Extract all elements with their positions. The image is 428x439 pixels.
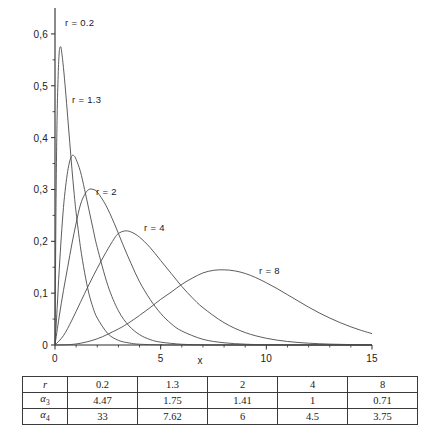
table-row-header: α3 — [23, 393, 68, 409]
x-tick-marks — [55, 345, 372, 350]
table-cell: 0.2 — [68, 377, 138, 393]
x-axis-title: x — [198, 355, 203, 366]
table-cell: 3.75 — [348, 409, 418, 425]
axes-group — [55, 8, 372, 345]
table-cell: 1.3 — [138, 377, 208, 393]
table-cell: 4 — [278, 377, 348, 393]
table-row: r0.21.3248 — [23, 377, 418, 393]
curve-r-1.3 — [55, 155, 372, 345]
table-cell: 33 — [68, 409, 138, 425]
table-cell: 1.41 — [208, 393, 278, 409]
table-cell: 7.62 — [138, 409, 208, 425]
table-row: α4337.6264.53.75 — [23, 409, 418, 425]
curve-r-8 — [55, 270, 372, 345]
row-header-symbol: r — [43, 379, 47, 390]
y-axis-tick-label: 0,4 — [18, 132, 48, 143]
table-cell: 4.47 — [68, 393, 138, 409]
curve-label: r = 2 — [96, 186, 117, 197]
x-axis-tick-label: 10 — [261, 353, 273, 364]
y-axis-tick-label: 0 — [18, 340, 48, 351]
x-axis-tick-label: 0 — [52, 353, 58, 364]
y-axis-tick-label: 0,2 — [18, 236, 48, 247]
y-axis-tick-label: 0,6 — [18, 28, 48, 39]
table-cell: 0.71 — [348, 393, 418, 409]
row-header-subscript: 3 — [46, 399, 50, 408]
table-cell: 1.75 — [138, 393, 208, 409]
curve-r-4 — [55, 231, 372, 345]
table-row-header: α4 — [23, 409, 68, 425]
table-cell: 2 — [208, 377, 278, 393]
table-row: α34.471.751.4110.71 — [23, 393, 418, 409]
table-cell: 6 — [208, 409, 278, 425]
figure-root: 0,60,50,40,30,20,10 051015 r = 0.2r = 1.… — [0, 0, 428, 439]
x-axis-tick-label: 15 — [366, 353, 378, 364]
curve-label: r = 0.2 — [65, 17, 94, 28]
y-axis-tick-label: 0,1 — [18, 288, 48, 299]
y-axis-tick-label: 0,3 — [18, 184, 48, 195]
table-cell: 8 — [348, 377, 418, 393]
y-axis-tick-label: 0,5 — [18, 80, 48, 91]
plot-svg — [0, 0, 428, 372]
curve-label: r = 4 — [144, 222, 165, 233]
y-tick-marks — [51, 34, 55, 345]
curve-label: r = 8 — [259, 265, 280, 276]
parameter-table-body: r0.21.3248α34.471.751.4110.71α4337.6264.… — [23, 377, 418, 425]
table-cell: 4.5 — [278, 409, 348, 425]
table-row-header: r — [23, 377, 68, 393]
row-header-subscript: 4 — [46, 415, 50, 424]
curve-label: r = 1.3 — [72, 94, 101, 105]
parameter-table: r0.21.3248α34.471.751.4110.71α4337.6264.… — [22, 376, 418, 425]
x-axis-tick-label: 5 — [158, 353, 164, 364]
plot-area: 0,60,50,40,30,20,10 051015 r = 0.2r = 1.… — [0, 0, 428, 372]
table-cell: 1 — [278, 393, 348, 409]
